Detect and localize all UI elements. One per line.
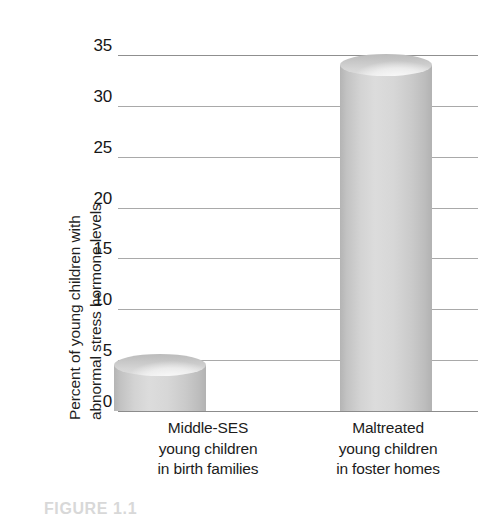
y-axis-tick-15: 15: [72, 240, 112, 257]
y-axis-tick-labels: 05101520253035: [66, 55, 112, 415]
y-axis-tick-0: 0: [72, 393, 112, 410]
chart-figure: Percent of young children with abnormal …: [0, 0, 501, 517]
x-axis-label-1-line-3: in foster homes: [298, 459, 478, 480]
bar-1: [340, 54, 432, 411]
y-axis-tick-20: 20: [72, 190, 112, 207]
figure-caption: FIGURE 1.1: [44, 500, 464, 517]
y-axis-tick-10: 10: [72, 291, 112, 308]
y-axis-tick-30: 30: [72, 88, 112, 105]
x-axis-label-0: Middle-SES young children in birth famil…: [118, 418, 298, 488]
bar-0: [114, 354, 206, 411]
x-axis-label-0-line-2: young children: [118, 439, 298, 460]
x-axis-label-1: Maltreated young children in foster home…: [298, 418, 478, 488]
x-axis-label-0-line-1: Middle-SES: [118, 418, 298, 439]
x-axis-label-0-line-3: in birth families: [118, 459, 298, 480]
x-axis-label-1-line-1: Maltreated: [298, 418, 478, 439]
bar-body-1: [340, 65, 432, 411]
y-axis-tick-35: 35: [72, 37, 112, 54]
y-axis-title: Percent of young children with abnormal …: [0, 0, 75, 430]
x-axis-tick-labels: Middle-SES young children in birth famil…: [118, 418, 478, 488]
plot-area: [118, 55, 478, 411]
y-axis-tick-5: 5: [72, 342, 112, 359]
y-axis-title-line-2: abnormal stress hormone levels: [85, 20, 106, 420]
y-axis-title-line-1: Percent of young children with: [64, 20, 85, 420]
x-axis-label-1-line-2: young children: [298, 439, 478, 460]
gridline-0: [118, 411, 478, 412]
y-axis-tick-25: 25: [72, 139, 112, 156]
